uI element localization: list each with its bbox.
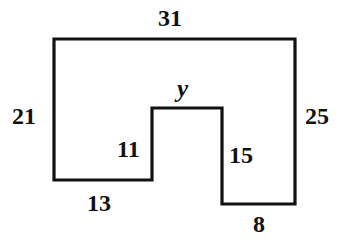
side-length-label-top: 31: [158, 6, 182, 30]
side-length-label-bottom-left: 13: [87, 191, 111, 215]
composite-polygon-shape: [0, 0, 343, 246]
side-length-label-notch-left: 11: [117, 137, 140, 161]
geometry-figure: 31 21 25 y 11 15 13 8: [0, 0, 343, 246]
side-length-label-notch-right: 15: [229, 143, 253, 167]
side-length-label-bottom-right: 8: [253, 212, 265, 236]
polygon-outline: [54, 39, 295, 204]
side-length-label-unknown-y: y: [177, 76, 188, 101]
side-length-label-left: 21: [12, 104, 36, 128]
side-length-label-right: 25: [305, 104, 329, 128]
